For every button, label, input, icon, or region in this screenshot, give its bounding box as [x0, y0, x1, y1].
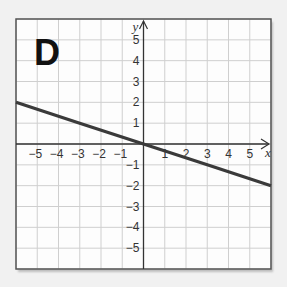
y-tick-label: 1 — [133, 116, 140, 130]
x-tick-label: −3 — [71, 147, 85, 161]
x-tick-label: 5 — [246, 147, 253, 161]
y-tick-label: 5 — [133, 33, 140, 47]
x-tick-label: −2 — [92, 147, 106, 161]
y-tick-label: −5 — [126, 241, 140, 255]
y-tick-label: −4 — [126, 220, 140, 234]
y-tick-label: −3 — [126, 200, 140, 214]
x-tick-label: −5 — [28, 147, 42, 161]
x-axis-label: x — [264, 145, 271, 160]
x-tick-label: 3 — [204, 147, 211, 161]
y-tick-label: 2 — [133, 95, 140, 109]
panel-label: D — [34, 35, 60, 71]
y-tick-label: 4 — [133, 54, 140, 68]
y-tick-label: 3 — [133, 75, 140, 89]
x-tick-label: −4 — [50, 147, 64, 161]
y-tick-label: −1 — [126, 158, 140, 172]
y-axis-label: y — [131, 19, 139, 34]
y-tick-label: −2 — [126, 179, 140, 193]
x-tick-label: 4 — [225, 147, 232, 161]
